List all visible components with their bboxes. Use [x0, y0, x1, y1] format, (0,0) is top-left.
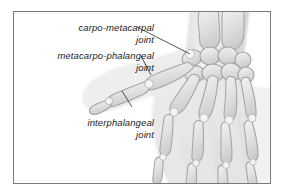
annotation-interphalangeal-joint: interphalangeal joint: [42, 117, 154, 140]
annotation-metacarpo-phalangeal-joint: metacarpo-phalangeal joint: [22, 50, 154, 73]
annotation-line-2: joint: [22, 62, 154, 74]
annotation-line-1: interphalangeal: [42, 117, 154, 129]
annotation-line-2: joint: [44, 34, 154, 46]
annotation-carpo-metacarpal-joint: carpo-metacarpal joint: [44, 22, 154, 45]
metacarpo-phalangeal-joint-marker: [170, 108, 178, 116]
annotation-line-1: carpo-metacarpal: [44, 22, 154, 34]
annotation-line-2: joint: [42, 129, 154, 141]
figure-frame: carpo-metacarpal joint metacarpo-phalang…: [13, 11, 271, 184]
anatomy-figure: carpo-metacarpal joint metacarpo-phalang…: [0, 0, 282, 196]
annotation-line-1: metacarpo-phalangeal: [22, 50, 154, 62]
interphalangeal-joint-marker: [105, 97, 112, 104]
